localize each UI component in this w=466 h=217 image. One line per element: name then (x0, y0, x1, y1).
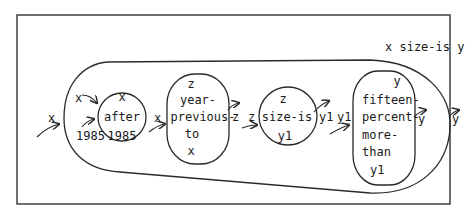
node-fpmt-line: y1 (370, 163, 384, 177)
label-after-in-x: x (75, 91, 82, 105)
node-fpmt-line: percent- (362, 110, 420, 124)
node-after-line: x (118, 90, 125, 104)
label-outer-out: y (452, 112, 459, 126)
node-after-line: 1985 (108, 129, 137, 143)
node-after-line: after (104, 110, 140, 124)
label-fpmt-out: y (418, 112, 425, 126)
node-fpmt-line: than (362, 145, 391, 159)
label-fpmt-in: y1 (337, 110, 351, 124)
label-input-x: x (48, 111, 55, 125)
node-size-is-line: size-is (262, 110, 313, 124)
outer-composite-boundary (64, 60, 450, 193)
diagram-canvas: x size-is y x x 1985 x after 1985 x z ye… (0, 0, 466, 217)
label-size-in: z (248, 110, 255, 124)
label-ypt-out: z (232, 110, 239, 124)
node-fpmt-line: fifteen- (362, 93, 420, 107)
arrow-fpmt-in (330, 125, 349, 134)
node-size-is-line: y1 (278, 129, 292, 143)
node-ypt-line: to (185, 127, 199, 141)
node-ypt-line: x (187, 144, 194, 158)
label-size-out: y1 (319, 110, 333, 124)
label-after-out: x (154, 111, 161, 125)
node-fpmt-line: more- (362, 128, 398, 142)
node-ypt-line: z (187, 77, 194, 91)
caption: x size-is y (385, 40, 464, 54)
node-fpmt-line: y (393, 74, 400, 88)
node-ypt-line: year- (180, 93, 216, 107)
node-ypt-line: previous- (170, 110, 235, 124)
arrow-size-in (242, 125, 257, 128)
arrow-after-in-1985 (82, 119, 94, 127)
arrow-after-in-x (82, 95, 97, 103)
arrow-input-x (37, 124, 59, 137)
node-size-is-line: z (279, 92, 286, 106)
arrow-after-out (149, 124, 165, 132)
label-after-in-1985: 1985 (76, 129, 105, 143)
